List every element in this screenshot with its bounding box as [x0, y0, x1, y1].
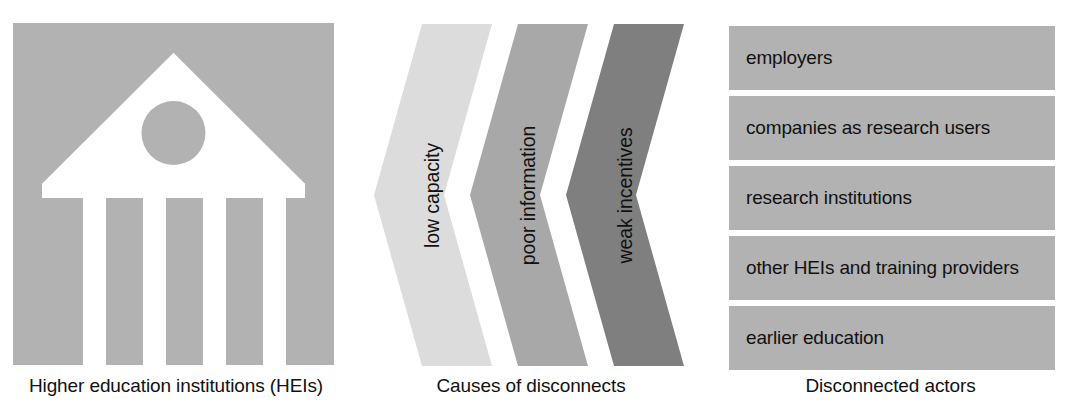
pediment-shape [83, 184, 264, 198]
chevron-shape-icon [566, 24, 684, 366]
actor-label: research institutions [746, 187, 912, 209]
university-building-icon [13, 23, 334, 365]
gable-circle-window-icon [142, 101, 206, 165]
actor-bar-earlier-education[interactable]: earlier education [729, 306, 1055, 370]
actor-bar-employers[interactable]: employers [729, 26, 1055, 90]
hei-icon-tile [13, 23, 334, 365]
actor-bar-research-institutions[interactable]: research institutions [729, 166, 1055, 230]
caption-actors: Disconnected actors [710, 375, 1071, 397]
chevron-weak-incentives[interactable]: weak incentives [566, 24, 684, 366]
chevron-polygon [566, 24, 684, 366]
actor-bar-companies-as-research-users[interactable]: companies as research users [729, 96, 1055, 160]
actor-bar-other-heis-and-training-providers[interactable]: other HEIs and training providers [729, 236, 1055, 300]
panel-disconnected-actors: employers companies as research users re… [710, 0, 1071, 403]
caption-hei: Higher education institutions (HEIs) [0, 375, 352, 397]
diagram-canvas: Higher education institutions (HEIs) low… [0, 0, 1071, 403]
panel-higher-education-institutions: Higher education institutions (HEIs) [0, 0, 352, 403]
panel-causes-of-disconnects: low capacity poor information weak incen… [352, 0, 710, 403]
actor-label: companies as research users [746, 117, 990, 139]
actor-label: earlier education [746, 327, 884, 349]
actor-label: employers [746, 47, 832, 69]
actor-label: other HEIs and training providers [746, 257, 1019, 279]
caption-causes: Causes of disconnects [352, 375, 710, 397]
